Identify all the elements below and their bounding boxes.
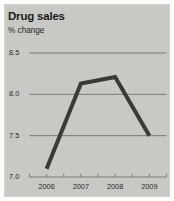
- x-axis-tick-label: 2007: [66, 183, 96, 190]
- chart-figure: Drug sales % change 8.58.07.57.0 2006200…: [0, 0, 174, 201]
- x-axis-tick-label: 2006: [32, 183, 62, 190]
- data-line-group: [47, 77, 150, 169]
- y-axis-tick-label: 8.5: [9, 49, 19, 56]
- chart-plot-area: [0, 0, 174, 201]
- y-axis-tick-label: 8.0: [9, 90, 19, 97]
- y-axis-tick-label: 7.0: [9, 173, 19, 180]
- x-axis-tick-label: 2009: [134, 183, 164, 190]
- data-series-line: [47, 77, 150, 169]
- x-axis-tick-label: 2008: [100, 183, 130, 190]
- y-axis-tick-label: 7.5: [9, 132, 19, 139]
